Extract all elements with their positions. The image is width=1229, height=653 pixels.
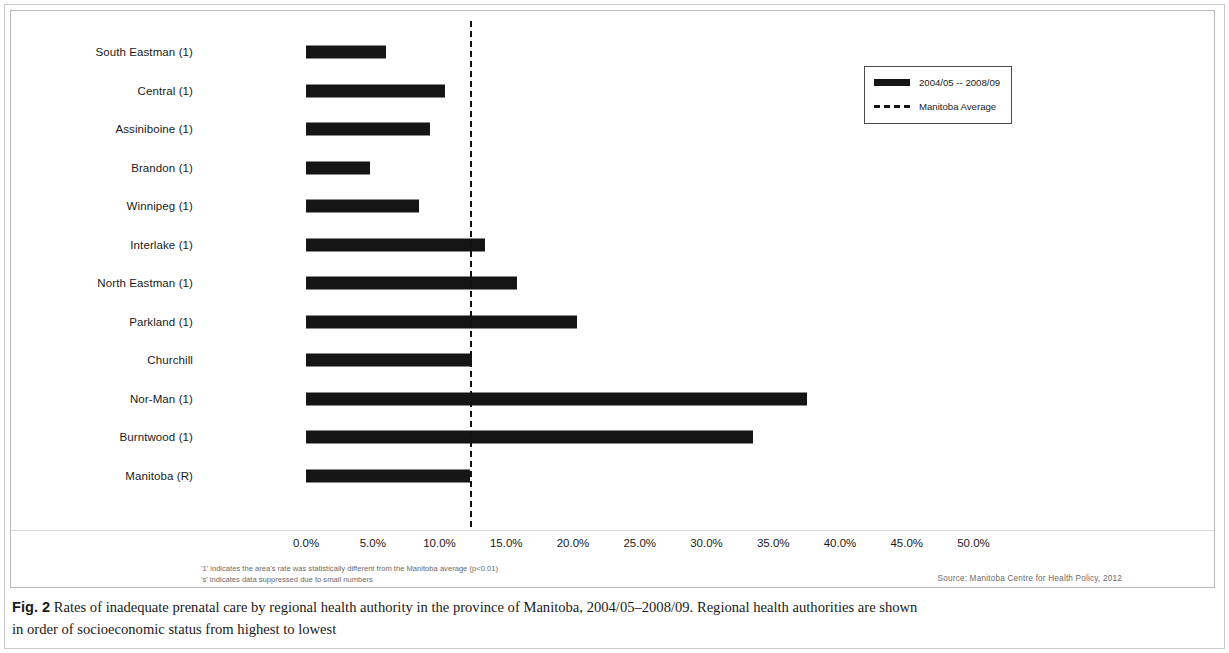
bar-row: Nor-Man (1)	[11, 380, 1214, 419]
bar-row-label: Brandon (1)	[131, 162, 193, 174]
figure-caption: Fig. 2 Rates of inadequate prenatal care…	[12, 597, 1212, 641]
figure-number: Fig. 2	[12, 599, 50, 615]
bar-row-label: Manitoba (R)	[125, 470, 193, 482]
bar-row-label: Nor-Man (1)	[130, 393, 193, 405]
bar-track	[306, 149, 1214, 188]
bar-track	[306, 303, 1214, 342]
bar-row-label: Interlake (1)	[130, 239, 193, 251]
bar-track	[306, 72, 1214, 111]
caption-text-line-2: in order of socioeconomic status from hi…	[12, 619, 1212, 641]
bar-track	[306, 341, 1214, 380]
chart-footnotes: '1' indicates the area's rate was statis…	[201, 563, 498, 585]
chart-source: Source: Manitoba Centre for Health Polic…	[938, 574, 1122, 583]
bar-track	[306, 110, 1214, 149]
x-axis-tick: 45.0%	[890, 537, 923, 549]
legend-bar-swatch-icon	[874, 79, 910, 86]
x-axis-tick: 0.0%	[293, 537, 319, 549]
bar-row: North Eastman (1)	[11, 264, 1214, 303]
legend-dashed-line-icon	[874, 105, 910, 108]
bar-track	[306, 418, 1214, 457]
bar	[306, 46, 386, 59]
footnote-line-2: 's' indicates data suppressed due to sma…	[201, 574, 498, 585]
figure-container: South Eastman (1)Central (1)Assiniboine …	[0, 0, 1229, 653]
bar-row: Parkland (1)	[11, 303, 1214, 342]
x-axis-tick: 25.0%	[623, 537, 656, 549]
x-axis-tick: 50.0%	[957, 537, 990, 549]
bar-track	[306, 457, 1214, 496]
bar-row-label: Assiniboine (1)	[115, 123, 193, 135]
bar-row: Assiniboine (1)	[11, 110, 1214, 149]
bar	[306, 277, 517, 290]
bar	[306, 431, 753, 444]
bar-row-label: Parkland (1)	[129, 316, 193, 328]
bar-row: Manitoba (R)	[11, 457, 1214, 496]
legend-entry-series: 2004/05 -- 2008/09	[874, 74, 1000, 91]
bar-row: Burntwood (1)	[11, 418, 1214, 457]
manitoba-average-line	[470, 21, 472, 527]
legend-series-label: 2004/05 -- 2008/09	[919, 77, 1000, 88]
bar	[306, 469, 470, 482]
bar-row-label: Churchill	[147, 354, 193, 366]
bar-row: Central (1)	[11, 72, 1214, 111]
bar-track	[306, 380, 1214, 419]
bar-track	[306, 187, 1214, 226]
chart-panel: South Eastman (1)Central (1)Assiniboine …	[10, 10, 1215, 588]
bar	[306, 392, 807, 405]
x-axis-tick: 20.0%	[557, 537, 590, 549]
bar-track	[306, 33, 1214, 72]
bar-row: Churchill	[11, 341, 1214, 380]
bar	[306, 238, 485, 251]
x-axis-tick-labels: 0.0%5.0%10.0%15.0%20.0%25.0%30.0%35.0%40…	[11, 537, 1214, 557]
bar	[306, 354, 472, 367]
bar	[306, 200, 419, 213]
x-axis-tick: 10.0%	[423, 537, 456, 549]
bar-rows: South Eastman (1)Central (1)Assiniboine …	[11, 33, 1214, 495]
bar-track	[306, 226, 1214, 265]
bar-row: Interlake (1)	[11, 226, 1214, 265]
x-axis-tick: 5.0%	[360, 537, 386, 549]
bar-row-label: North Eastman (1)	[97, 277, 193, 289]
bar-row-label: South Eastman (1)	[95, 46, 193, 58]
footnote-line-1: '1' indicates the area's rate was statis…	[201, 563, 498, 574]
bar	[306, 123, 430, 136]
bar-row-label: Central (1)	[138, 85, 193, 97]
x-axis-tick: 30.0%	[690, 537, 723, 549]
x-axis-tick: 35.0%	[757, 537, 790, 549]
bar-row: Brandon (1)	[11, 149, 1214, 188]
bar-row: Winnipeg (1)	[11, 187, 1214, 226]
plot-area: South Eastman (1)Central (1)Assiniboine …	[11, 11, 1214, 587]
x-axis-tick: 15.0%	[490, 537, 523, 549]
bar-row-label: Burntwood (1)	[119, 431, 193, 443]
bar	[306, 161, 370, 174]
bar-row: South Eastman (1)	[11, 33, 1214, 72]
legend-average-label: Manitoba Average	[919, 101, 996, 112]
caption-text-line-1: Rates of inadequate prenatal care by reg…	[50, 599, 917, 615]
bar	[306, 84, 445, 97]
bar-row-label: Winnipeg (1)	[127, 200, 193, 212]
bar	[306, 315, 577, 328]
x-axis-tick: 40.0%	[824, 537, 857, 549]
x-axis-line	[11, 530, 1214, 531]
chart-legend: 2004/05 -- 2008/09 Manitoba Average	[864, 66, 1012, 124]
bar-track	[306, 264, 1214, 303]
legend-entry-average: Manitoba Average	[874, 98, 1000, 115]
